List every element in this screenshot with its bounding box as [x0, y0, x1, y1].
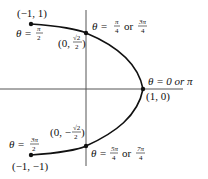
or-text: or	[124, 20, 134, 32]
frac-num: π	[115, 18, 119, 26]
point-0-sqrt2over2	[84, 31, 88, 35]
point-0-neg-sqrt2over2	[84, 144, 88, 148]
frac-den: 4	[115, 27, 119, 35]
frac-den: 2	[32, 145, 36, 153]
label-point-neg1-1: (−1, 1)	[17, 7, 47, 20]
frac-num: √2	[73, 34, 81, 42]
point-neg1-1	[29, 22, 33, 26]
point-neg1-neg1	[29, 153, 33, 157]
or-text: or	[122, 147, 132, 159]
label-point-0-sqrt2over2: (0,	[58, 37, 70, 50]
point-1-0	[141, 87, 145, 91]
frac-num: 3π	[30, 136, 39, 144]
frac-den: 2	[75, 43, 79, 51]
label-point-0-neg-sqrt2over2: (0, −	[50, 126, 71, 139]
label-theta-pi-over-4: θ =	[92, 20, 108, 32]
label-theta-pi-over-2: θ =	[16, 27, 32, 39]
paren: )	[81, 126, 85, 139]
frac-num: 7π	[137, 145, 145, 153]
frac-num: π	[37, 25, 41, 33]
frac-num: 5π	[111, 145, 119, 153]
label-theta-5pi-over-4: θ =	[91, 147, 107, 159]
label-theta-3pi-over-2: θ =	[9, 138, 25, 150]
label-theta-0-or-pi: θ = 0 or π	[148, 75, 193, 87]
label-point-1-0: (1, 0)	[146, 90, 170, 103]
frac-den: 4	[139, 154, 143, 162]
label-point-neg1-neg1: (−1, −1)	[12, 160, 49, 173]
parametric-curve-diagram: (−1, 1) θ = π 2 (0, √2 2 ) θ = π 4 or 3π…	[0, 0, 208, 179]
frac-num: √2	[73, 124, 81, 132]
frac-den: 4	[141, 27, 145, 35]
frac-den: 2	[37, 34, 41, 42]
frac-den: 2	[74, 133, 78, 141]
frac-num: 3π	[138, 18, 147, 26]
frac-den: 4	[112, 154, 116, 162]
paren: )	[82, 37, 86, 50]
